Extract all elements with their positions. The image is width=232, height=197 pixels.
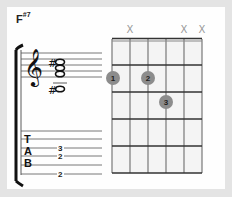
fretboard [112, 39, 202, 174]
muted-x-icon: X [181, 24, 188, 35]
tab-letter-a: A [24, 145, 32, 157]
whole-note [56, 71, 65, 77]
finger-dot-3: 3 [159, 95, 173, 109]
tab-fret-number: 2 [58, 152, 63, 161]
finger-number: 1 [111, 74, 116, 83]
tab-label: T A B [24, 133, 32, 169]
tab-fret-number: 2 [58, 170, 63, 179]
tab-numbers: 3 2 2 [57, 144, 64, 179]
treble-clef-icon: 𝄞 [24, 48, 43, 87]
muted-string-markers: X X X [127, 24, 206, 35]
muted-x-icon: X [127, 24, 134, 35]
sharp-icon: # [48, 57, 57, 70]
muted-x-icon: X [199, 24, 206, 35]
tab-letter-t: T [24, 133, 31, 145]
finger-number: 2 [146, 74, 151, 83]
sharp-icon: # [48, 84, 57, 97]
finger-dot-2: 2 [141, 71, 155, 85]
finger-dot-1: 1 [106, 71, 120, 85]
finger-number: 3 [164, 98, 169, 107]
tab-letter-b: B [24, 157, 32, 169]
chord-diagram: 𝄞 # # T A B 3 2 2 [0, 0, 232, 197]
